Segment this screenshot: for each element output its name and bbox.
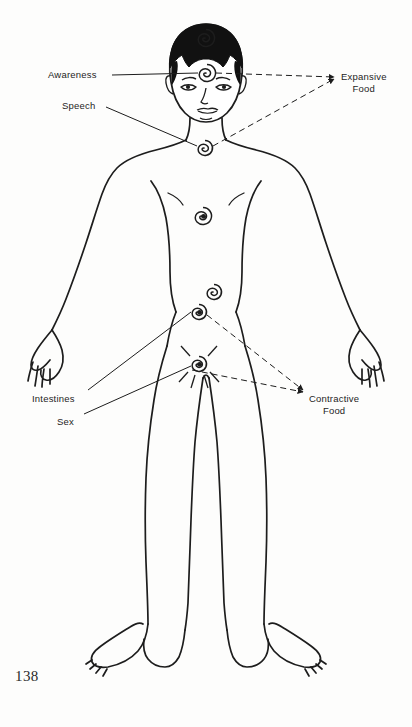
leader-contractive-from-intestines — [207, 315, 303, 390]
chakra-heart-icon — [195, 207, 211, 224]
diagram-page: Awareness Speech Expansive Food Intestin… — [0, 0, 412, 727]
leader-sex — [84, 366, 191, 414]
leader-intestines — [88, 312, 191, 390]
label-awareness: Awareness — [48, 69, 97, 81]
chakra-navel-icon — [207, 285, 221, 300]
chakra-throat-icon — [198, 141, 212, 156]
leader-lines — [84, 73, 334, 414]
chakra-intestines-icon — [192, 305, 206, 320]
label-contractive-food: Contractive Food — [309, 393, 359, 416]
label-intestines: Intestines — [32, 393, 75, 405]
label-sex: Sex — [57, 416, 74, 428]
page-number: 138 — [15, 668, 39, 685]
chakra-sex-icon — [179, 346, 219, 388]
label-speech: Speech — [62, 100, 95, 112]
leader-speech — [106, 107, 197, 146]
label-expansive-food: Expansive Food — [341, 71, 387, 94]
